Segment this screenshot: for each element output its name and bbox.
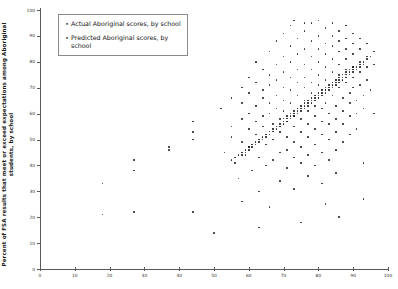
data-point-predicted xyxy=(300,110,302,112)
data-point-actual xyxy=(283,100,285,102)
data-point-predicted xyxy=(349,71,351,73)
data-point-actual xyxy=(349,92,351,94)
data-point-actual xyxy=(272,139,274,141)
data-point-actual xyxy=(363,198,365,200)
data-point-actual xyxy=(342,141,344,143)
data-point-predicted xyxy=(338,77,340,79)
x-tick xyxy=(214,267,215,271)
data-point-predicted xyxy=(258,141,260,143)
data-point-actual xyxy=(192,121,194,123)
x-tick xyxy=(284,267,285,271)
data-point-predicted xyxy=(328,87,330,89)
data-point-predicted xyxy=(304,108,306,110)
data-point-predicted xyxy=(328,84,330,86)
data-point-actual xyxy=(286,136,288,138)
data-point-actual xyxy=(321,183,323,185)
data-point-actual xyxy=(311,40,313,42)
data-point-actual xyxy=(304,100,306,102)
data-point-predicted xyxy=(349,69,351,71)
data-point-actual xyxy=(321,108,323,110)
data-point-actual xyxy=(258,191,260,193)
data-point-actual xyxy=(363,162,365,164)
data-point-predicted xyxy=(318,95,320,97)
data-point-actual xyxy=(276,108,278,110)
data-point-predicted xyxy=(290,115,292,117)
data-point-actual xyxy=(328,123,330,125)
x-tick xyxy=(40,267,41,271)
data-point-predicted xyxy=(314,97,316,99)
y-tick-label: 90 xyxy=(5,33,35,38)
data-point-predicted xyxy=(325,87,327,89)
x-tick xyxy=(144,267,145,271)
y-tick-label: 30 xyxy=(5,189,35,194)
data-point-actual xyxy=(314,165,316,167)
data-point-actual xyxy=(276,40,278,42)
y-tick-label: 50 xyxy=(5,137,35,142)
data-point-actual xyxy=(307,136,309,138)
data-point-actual xyxy=(293,126,295,128)
data-point-actual xyxy=(373,113,375,115)
data-point-predicted xyxy=(258,139,260,141)
data-point-actual xyxy=(248,92,250,94)
y-tick xyxy=(37,165,41,166)
data-point-actual xyxy=(248,77,250,79)
legend-marker-predicted-icon: • xyxy=(64,34,70,42)
data-point-predicted xyxy=(311,100,313,102)
data-point-actual xyxy=(307,154,309,156)
data-point-predicted xyxy=(335,79,337,81)
data-point-predicted xyxy=(269,134,271,136)
data-point-predicted xyxy=(321,89,323,91)
data-point-actual xyxy=(290,25,292,27)
data-point-predicted xyxy=(370,56,372,58)
data-point-actual xyxy=(262,69,264,71)
data-point-predicted xyxy=(352,66,354,68)
data-point-actual xyxy=(283,71,285,73)
data-point-actual xyxy=(168,149,170,151)
data-point-actual xyxy=(325,203,327,205)
data-point-actual xyxy=(325,66,327,68)
data-point-actual xyxy=(238,178,240,180)
data-point-predicted xyxy=(293,110,295,112)
data-point-actual xyxy=(363,95,365,97)
data-point-predicted xyxy=(297,108,299,110)
x-tick-label: 40 xyxy=(169,273,189,278)
data-point-actual xyxy=(258,157,260,159)
data-point-predicted xyxy=(283,121,285,123)
data-point-predicted xyxy=(314,95,316,97)
data-point-actual xyxy=(318,35,320,37)
data-point-actual xyxy=(290,61,292,63)
data-point-actual xyxy=(332,71,334,73)
data-point-actual xyxy=(272,159,274,161)
data-point-actual xyxy=(325,102,327,104)
data-point-actual xyxy=(345,48,347,50)
data-point-actual xyxy=(311,56,313,58)
data-point-actual xyxy=(304,22,306,24)
data-point-actual xyxy=(231,126,233,128)
data-point-actual xyxy=(255,105,257,107)
data-point-actual xyxy=(293,20,295,22)
data-point-actual xyxy=(265,165,267,167)
data-point-predicted xyxy=(342,79,344,81)
data-point-actual xyxy=(269,113,271,115)
chart-legend: • Actual Aboriginal scores, by school • … xyxy=(58,14,188,56)
data-point-actual xyxy=(231,97,233,99)
data-point-actual xyxy=(255,121,257,123)
x-tick xyxy=(110,267,111,271)
data-point-actual xyxy=(325,27,327,29)
data-point-actual xyxy=(279,152,281,154)
data-point-predicted xyxy=(318,97,320,99)
data-point-actual xyxy=(366,43,368,45)
y-tick xyxy=(37,10,41,11)
y-tick-label: 40 xyxy=(5,163,35,168)
data-point-actual xyxy=(251,170,253,172)
data-point-predicted xyxy=(332,87,334,89)
data-point-actual xyxy=(297,69,299,71)
data-point-predicted xyxy=(345,77,347,79)
data-point-actual xyxy=(262,115,264,117)
data-point-actual xyxy=(332,95,334,97)
y-tick-label: 20 xyxy=(5,215,35,220)
data-point-actual xyxy=(276,95,278,97)
x-tick xyxy=(318,267,319,271)
x-tick-label: 100 xyxy=(378,273,398,278)
x-tick-label: 60 xyxy=(239,273,259,278)
